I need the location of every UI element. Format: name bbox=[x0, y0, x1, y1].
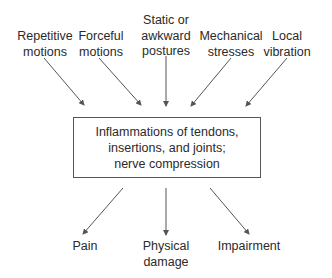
cause-line: motions bbox=[78, 45, 123, 61]
box-line: nerve compression bbox=[114, 156, 220, 172]
cause-repetitive-motions: Repetitive motions bbox=[17, 29, 73, 60]
arrow-repetitive-motions bbox=[44, 58, 84, 105]
arrow-local-vibration bbox=[246, 58, 287, 106]
effect-line: damage bbox=[143, 255, 190, 271]
cause-line: Forceful bbox=[78, 29, 123, 45]
effect-impairment: Impairment bbox=[218, 239, 281, 255]
cause-line: postures bbox=[141, 44, 190, 60]
effect-line: Impairment bbox=[218, 239, 281, 255]
cause-line: awkward bbox=[141, 29, 190, 45]
cause-line: motions bbox=[17, 45, 73, 61]
cause-forceful-motions: Forceful motions bbox=[78, 29, 123, 60]
cause-line: Static or bbox=[141, 13, 190, 29]
cause-mechanical-stresses: Mechanical stresses bbox=[199, 29, 262, 60]
cause-local-vibration: Local vibration bbox=[263, 29, 310, 60]
cause-line: Repetitive bbox=[17, 29, 73, 45]
cause-line: vibration bbox=[263, 45, 310, 61]
arrow-mechanical-stresses bbox=[191, 58, 231, 106]
effect-physical-damage: Physical damage bbox=[143, 239, 190, 270]
effect-line: Pain bbox=[72, 239, 97, 255]
arrow-to-pain bbox=[83, 188, 123, 234]
effect-pain: Pain bbox=[72, 239, 97, 255]
arrow-forceful-motions bbox=[99, 58, 141, 105]
cause-line: stresses bbox=[199, 45, 262, 61]
arrow-to-impairment bbox=[210, 188, 249, 234]
center-condition-box: Inflammations of tendons, insertions, an… bbox=[73, 117, 261, 178]
cause-line: Mechanical bbox=[199, 29, 262, 45]
box-line: Inflammations of tendons, bbox=[95, 124, 238, 140]
box-line: insertions, and joints; bbox=[108, 140, 225, 156]
effect-line: Physical bbox=[143, 239, 190, 255]
cause-line: Local bbox=[263, 29, 310, 45]
cause-static-awkward-postures: Static or awkward postures bbox=[141, 13, 190, 60]
